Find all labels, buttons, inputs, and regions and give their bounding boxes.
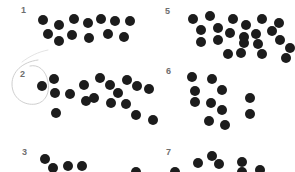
dot — [144, 84, 154, 94]
dot — [214, 159, 224, 169]
dot — [49, 74, 59, 84]
dot — [110, 16, 120, 26]
panel-number-label: 1 — [21, 6, 26, 15]
dot — [196, 37, 206, 47]
dot — [83, 18, 93, 28]
dot — [257, 14, 267, 24]
dot — [43, 29, 53, 39]
dot — [89, 93, 99, 103]
dot — [37, 81, 47, 91]
dot — [237, 167, 247, 172]
dot — [251, 29, 261, 39]
dot — [131, 110, 141, 120]
dot — [63, 161, 73, 171]
dot — [255, 165, 265, 172]
dot — [113, 88, 123, 98]
dot — [67, 30, 77, 40]
dot — [190, 97, 200, 107]
dot — [96, 14, 106, 24]
dot — [237, 157, 247, 167]
dot — [205, 11, 215, 21]
dot — [206, 98, 216, 108]
dot — [204, 116, 214, 126]
dot — [281, 53, 291, 63]
dot — [217, 85, 227, 95]
dot — [119, 32, 129, 42]
dot — [38, 15, 48, 25]
dot — [245, 93, 255, 103]
dot — [95, 73, 105, 83]
dot — [236, 48, 246, 58]
dot — [225, 28, 235, 38]
dot — [245, 109, 255, 119]
dot — [275, 35, 285, 45]
dot — [77, 161, 87, 171]
dot — [188, 14, 198, 24]
dot — [65, 89, 75, 99]
dot — [267, 26, 277, 36]
panel-number-label: 3 — [22, 148, 27, 157]
dot — [106, 98, 116, 108]
dot — [121, 99, 131, 109]
dot — [132, 81, 142, 91]
dot — [51, 108, 61, 118]
dot — [285, 43, 295, 53]
dot — [148, 115, 158, 125]
dot — [103, 29, 113, 39]
dot — [54, 20, 64, 30]
dot — [125, 16, 135, 26]
dot — [50, 88, 60, 98]
dot — [213, 23, 223, 33]
panel-number-label: 7 — [166, 148, 171, 157]
dot — [223, 49, 233, 59]
dot — [122, 75, 132, 85]
dot — [170, 167, 180, 172]
dot — [79, 80, 89, 90]
dot — [253, 39, 263, 49]
dot — [193, 158, 203, 168]
dot — [241, 20, 251, 30]
panel-number-label: 6 — [166, 67, 171, 76]
panel-number-label: 5 — [165, 7, 170, 16]
dot — [213, 35, 223, 45]
dot — [48, 163, 58, 172]
dot — [257, 49, 267, 59]
dot — [196, 25, 206, 35]
panel-number-label: 2 — [20, 70, 25, 79]
dot — [239, 38, 249, 48]
dot — [190, 86, 200, 96]
dot — [228, 14, 238, 24]
dot — [84, 33, 94, 43]
dot — [207, 74, 217, 84]
dot — [69, 14, 79, 24]
dot — [217, 105, 227, 115]
dot — [54, 36, 64, 46]
dot — [220, 120, 230, 130]
dot — [187, 72, 197, 82]
dot-cluster-worksheet: 152637 — [0, 0, 295, 172]
dot — [40, 154, 50, 164]
dot — [131, 167, 141, 172]
